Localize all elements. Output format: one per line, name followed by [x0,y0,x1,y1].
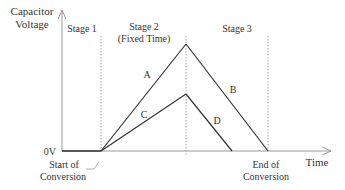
segment-c [101,94,186,151]
stage-2-label: Stage 2 [129,21,159,32]
segment-b-label: B [230,84,237,95]
segment-d-label: D [213,115,220,126]
start-conversion-label-line1: Start of [49,159,79,170]
stage-3-label: Stage 3 [222,23,252,34]
x-axis-label: Time [306,156,329,168]
segment-b [186,44,268,151]
y-axis-label-line1: Capacitor [11,5,54,17]
y-axis-label-line2: Voltage [15,18,49,30]
start-conversion-label-line2: Conversion [40,171,86,182]
segment-a-label: A [143,69,151,80]
end-conversion-label-line1: End of [253,159,281,170]
dual-slope-diagram: Capacitor Voltage Stage 1 Stage 2 (Fixed… [0,0,345,190]
stage-2-sublabel: (Fixed Time) [118,33,171,45]
stage-1-label: Stage 1 [67,23,97,34]
zero-volt-label: 0V [44,146,57,157]
segment-a [101,44,186,151]
end-conversion-label-line2: Conversion [243,171,289,182]
segment-c-label: C [141,109,148,120]
segment-d [186,94,232,151]
start-leader [86,162,99,169]
